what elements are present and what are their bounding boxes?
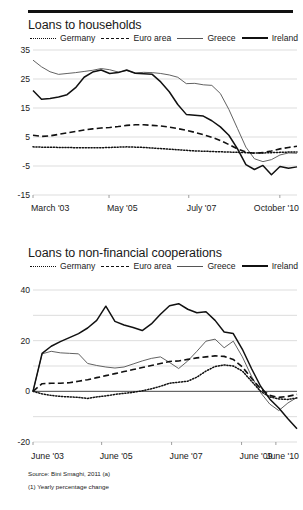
y-axis-tick-label: 40 — [20, 285, 30, 295]
figure-page: Loans to households Germany Euro area Gr… — [0, 0, 303, 510]
legend-item-greece: Greece — [177, 261, 235, 271]
series-line-germany — [33, 147, 297, 153]
x-axis-tick-label: June '07 — [170, 451, 203, 461]
x-axis-tick-label: June '10 — [266, 451, 299, 461]
x-axis-tick-label: June '03 — [31, 451, 64, 461]
x-axis-tick-label: March '03 — [31, 203, 69, 213]
x-axis-tick-label: October '10 — [254, 203, 299, 213]
chart1-title: Loans to households — [28, 18, 141, 32]
legend-label-ireland: Ireland — [272, 261, 298, 271]
y-axis-tick-label: -15 — [18, 190, 30, 200]
top-divider-rule — [28, 10, 293, 13]
x-axis-tick-label: May '05 — [107, 203, 138, 213]
source-note: Source: Bini Smaghi, 2011 (a) — [28, 470, 110, 477]
y-axis-tick-label: 35 — [20, 45, 30, 55]
legend-swatch-thick-line-icon — [242, 37, 268, 39]
y-axis-tick-label: -20 — [18, 437, 30, 447]
x-axis-tick-label: July '07 — [187, 203, 217, 213]
legend-swatch-thin-line-icon — [177, 266, 203, 267]
y-axis-tick-label: -5 — [22, 161, 30, 171]
chart1-y-axis-labels: 3525155-5-15 — [0, 42, 30, 202]
legend-swatch-thin-line-icon — [177, 38, 203, 39]
series-line-greece — [33, 339, 297, 410]
chart1-svg — [0, 42, 303, 202]
y-axis-tick-label: 25 — [20, 74, 30, 84]
footnote-note: (1) Yearly percentage change — [28, 483, 109, 490]
legend-swatch-thick-line-icon — [242, 265, 268, 267]
y-axis-tick-label: 5 — [25, 132, 30, 142]
legend-item-germany: Germany — [30, 261, 95, 271]
legend-swatch-dashed-icon — [101, 266, 129, 267]
x-axis-tick-label: June '05 — [100, 451, 133, 461]
y-axis-tick-label: 20 — [20, 336, 30, 346]
legend-swatch-dotted-icon — [30, 38, 56, 39]
series-line-ireland — [33, 70, 297, 175]
legend-item-ireland: Ireland — [242, 261, 298, 271]
chart2-legend: Germany Euro area Greece Ireland — [30, 259, 298, 273]
chart1-plot-area: 3525155-5-15 — [0, 42, 303, 202]
y-axis-tick-label: 0 — [25, 386, 30, 396]
legend-item-euro-area: Euro area — [101, 261, 171, 271]
chart2-title: Loans to non-financial cooperations — [28, 246, 222, 260]
legend-swatch-dashed-icon — [101, 38, 129, 39]
y-axis-tick-label: 15 — [20, 103, 30, 113]
chart1-x-axis-labels: March '03May '05July '07October '10 — [0, 203, 303, 217]
legend-label-greece: Greece — [207, 261, 235, 271]
legend-swatch-dotted-icon — [30, 266, 56, 267]
chart2-svg — [0, 282, 303, 450]
legend-label-germany: Germany — [60, 261, 95, 271]
chart2-x-axis-labels: June '03June '05June '07June '09June '10 — [0, 451, 303, 465]
chart2-plot-area: 40200-20 — [0, 282, 303, 450]
legend-label-euro-area: Euro area — [133, 261, 171, 271]
chart2-y-axis-labels: 40200-20 — [0, 282, 30, 450]
series-line-greece — [33, 60, 297, 161]
